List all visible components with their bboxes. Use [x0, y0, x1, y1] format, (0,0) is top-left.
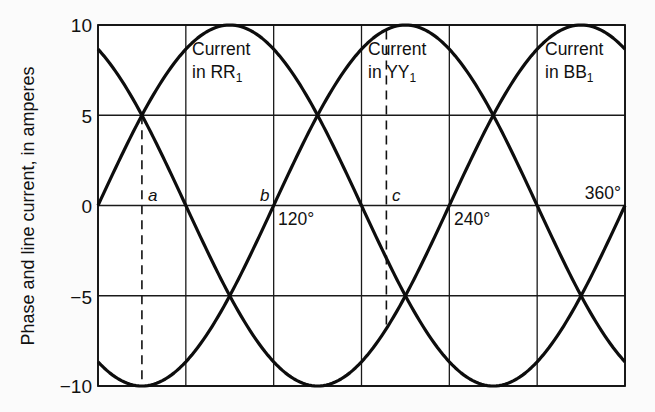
y-tick-10: 10: [71, 15, 92, 36]
curve-label-rr1-line2: in RR1: [192, 62, 243, 85]
marker-a: a: [148, 186, 157, 205]
curve-label-rr1-line1: Current: [192, 39, 250, 59]
x-label-120: 120°: [278, 209, 314, 229]
y-axis-label: Phase and line current, in amperes: [18, 66, 38, 345]
y-axis-ticks: 10 5 0 −5 −10: [60, 15, 92, 397]
curve-label-bb1-line1: Current: [545, 39, 603, 59]
curve-label-yy1-line1: Current: [368, 39, 426, 59]
y-tick-neg10: −10: [60, 376, 92, 397]
marker-c: c: [392, 186, 401, 205]
x-label-240: 240°: [454, 209, 490, 229]
curve-label-bb1-line2: in BB1: [545, 62, 594, 85]
marker-b: b: [260, 186, 269, 205]
y-tick-0: 0: [81, 196, 92, 217]
y-tick-5: 5: [81, 106, 92, 127]
y-tick-neg5: −5: [70, 287, 92, 308]
curve-label-yy1-line2: in YY1: [368, 62, 417, 85]
x-label-360: 360°: [585, 183, 621, 203]
three-phase-current-chart: 10 5 0 −5 −10 Phase and line current, in…: [0, 0, 655, 412]
